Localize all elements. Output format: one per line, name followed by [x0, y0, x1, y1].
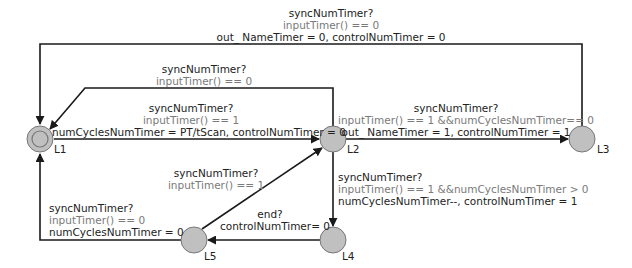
- edge-label-l4-to-l5: end? controlNumTimer= 0: [220, 208, 320, 232]
- assignment-label: controlNumTimer= 0: [220, 220, 320, 232]
- guard-label: inputTimer() == 1 &&numCyclesNumTimer== …: [338, 114, 574, 126]
- guard-label: inputTimer() == 0: [146, 75, 262, 87]
- sync-label: syncNumTimer?: [338, 171, 589, 183]
- assignment-label: numCyclesNumTimer = 0: [49, 226, 184, 238]
- edge-label-l5-to-l2: syncNumTimer? inputTimer() == 1: [166, 167, 266, 191]
- guard-label: inputTimer() == 1: [52, 114, 330, 126]
- edge-label-l5-to-l1: syncNumTimer? inputTimer() == 0 numCycle…: [49, 202, 184, 238]
- location-name-l2: L2: [347, 143, 360, 155]
- sync-label: syncNumTimer?: [216, 7, 446, 19]
- sync-label: syncNumTimer?: [146, 63, 262, 75]
- edge-label-l1-to-l2: syncNumTimer? inputTimer() == 1 numCycle…: [52, 102, 330, 138]
- location-name-l4: L4: [342, 250, 355, 262]
- edge-label-l2-to-l1: syncNumTimer? inputTimer() == 0: [146, 63, 262, 87]
- edge-label-l2-to-l4: syncNumTimer? inputTimer() == 1 &&numCyc…: [338, 171, 589, 207]
- guard-label: inputTimer() == 0: [216, 19, 446, 31]
- sync-label: syncNumTimer?: [338, 102, 574, 114]
- edge-label-l2-to-l3: syncNumTimer? inputTimer() == 1 &&numCyc…: [338, 102, 574, 138]
- assignment-label: numCyclesNumTimer--, controlNumTimer = 1: [338, 195, 589, 207]
- sync-label: end?: [220, 208, 320, 220]
- sync-label: syncNumTimer?: [166, 167, 266, 179]
- sync-label: syncNumTimer?: [52, 102, 330, 114]
- guard-label: inputTimer() == 1: [166, 179, 266, 191]
- guard-label: inputTimer() == 1 &&numCyclesNumTimer > …: [338, 183, 589, 195]
- location-l1[interactable]: [27, 126, 53, 152]
- location-name-l5: L5: [204, 250, 217, 262]
- location-name-l1: L1: [54, 143, 67, 155]
- assignment-label: numCyclesNumTimer = PT/tScan, controlNum…: [52, 126, 330, 138]
- edge-label-l3-to-l1: syncNumTimer? inputTimer() == 0 out_ Nam…: [216, 7, 446, 43]
- sync-label: syncNumTimer?: [49, 202, 184, 214]
- location-name-l3: L3: [597, 143, 610, 155]
- assignment-label: out_ NameTimer = 0, controlNumTimer = 0: [216, 31, 446, 43]
- guard-label: inputTimer() == 0: [49, 214, 184, 226]
- assignment-label: out_ NameTimer = 1, controlNumTimer = 1: [338, 126, 574, 138]
